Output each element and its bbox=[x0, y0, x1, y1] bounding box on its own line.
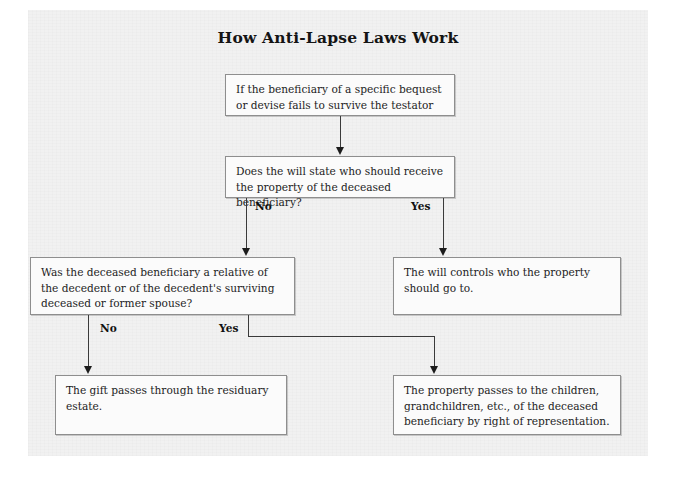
node-residuary-estate-text: The gift passes through the residuary es… bbox=[66, 383, 278, 414]
edge-q1-no-arrow bbox=[242, 248, 250, 256]
edge-q2-yes-arrow bbox=[430, 366, 438, 374]
node-residuary-estate: The gift passes through the residuary es… bbox=[55, 375, 287, 435]
node-question-will-states: Does the will state who should receive t… bbox=[225, 156, 455, 198]
edge-q2-no-line bbox=[88, 315, 89, 367]
node-start: If the beneficiary of a specific bequest… bbox=[225, 74, 455, 116]
edge-q2-yes-line-down2 bbox=[434, 336, 435, 367]
node-right-of-representation-text: The property passes to the children, gra… bbox=[404, 383, 612, 430]
branch-label-q1-yes: Yes bbox=[411, 200, 430, 212]
node-right-of-representation: The property passes to the children, gra… bbox=[393, 375, 621, 435]
diagram-page: How Anti-Lapse Laws Work If the benefici… bbox=[0, 0, 676, 478]
branch-label-q1-no: No bbox=[255, 200, 272, 212]
edge-start-to-q1-line bbox=[340, 116, 341, 148]
edge-q1-no-line bbox=[246, 198, 247, 249]
branch-label-q2-no: No bbox=[100, 322, 117, 334]
edge-q2-yes-line-down1 bbox=[248, 315, 249, 337]
page-title: How Anti-Lapse Laws Work bbox=[0, 28, 676, 47]
node-will-controls: The will controls who the property shoul… bbox=[393, 257, 621, 315]
edge-q1-yes-arrow bbox=[439, 248, 447, 256]
edge-q2-yes-line-across bbox=[248, 336, 435, 337]
edge-q1-yes-line bbox=[443, 198, 444, 249]
node-question-relative: Was the deceased beneficiary a relative … bbox=[30, 257, 295, 315]
node-question-relative-text: Was the deceased beneficiary a relative … bbox=[41, 265, 286, 312]
branch-label-q2-yes: Yes bbox=[219, 322, 238, 334]
node-will-controls-text: The will controls who the property shoul… bbox=[404, 265, 612, 296]
node-start-text: If the beneficiary of a specific bequest… bbox=[236, 82, 446, 113]
edge-q2-no-arrow bbox=[84, 366, 92, 374]
edge-start-to-q1-arrow bbox=[336, 147, 344, 155]
